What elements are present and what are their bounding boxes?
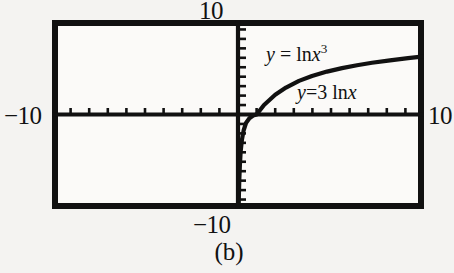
plot-canvas bbox=[52, 20, 424, 209]
x-axis-max-label: 10 bbox=[428, 103, 452, 128]
curve-label-lower-argument: x bbox=[348, 81, 357, 103]
x-axis-min-label: −10 bbox=[4, 103, 42, 128]
figure-container: 10 −10 −10 10 y = lnx3 y=3 lnx (b) bbox=[0, 0, 454, 273]
log-curve bbox=[239, 56, 424, 209]
curve-label-upper-argument: x bbox=[312, 43, 321, 65]
curve-label-upper-exponent: 3 bbox=[321, 41, 328, 56]
curve-label-ln-x-cubed: y = lnx3 bbox=[266, 42, 327, 64]
y-axis-min-label: −10 bbox=[193, 212, 231, 237]
curve-label-lower-function: ln bbox=[332, 81, 348, 103]
curve-label-three-ln-x: y=3 lnx bbox=[297, 82, 357, 102]
curve-label-upper-function: ln bbox=[296, 43, 312, 65]
y-axis-max-label: 10 bbox=[199, 0, 223, 23]
curve-label-upper-equals: = bbox=[280, 43, 291, 65]
curve-label-lower-equals: = bbox=[306, 81, 317, 103]
figure-caption-text: (b) bbox=[214, 238, 243, 265]
curve-label-lower-coefficient: 3 bbox=[317, 81, 327, 103]
curve-label-lower-lhs: y bbox=[297, 81, 306, 103]
curve-label-upper-lhs: y bbox=[266, 43, 275, 65]
figure-caption: (b) bbox=[0, 238, 454, 266]
